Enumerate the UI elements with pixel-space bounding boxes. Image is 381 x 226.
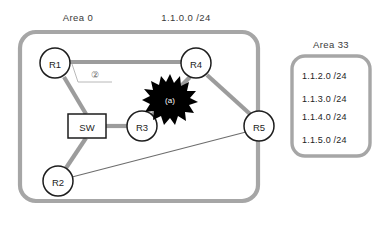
link-sw-r2: [66, 138, 86, 168]
node-sw-label: SW: [79, 122, 94, 133]
subnet-item-4: 1.1.5.0 /24: [302, 135, 347, 145]
subnet-item-2: 1.1.3.0 /24: [302, 94, 347, 104]
node-r3[interactable]: R3: [127, 111, 157, 141]
link-r4-r5: [207, 75, 250, 114]
subnet-item-1: 1.1.2.0 /24: [302, 71, 347, 81]
node-sw[interactable]: SW: [68, 114, 106, 138]
node-r1-label: R1: [49, 59, 61, 70]
diagram-canvas: ② R1 R4 R3 R5 R2: [0, 0, 381, 226]
node-r2[interactable]: R2: [43, 166, 73, 196]
callout-2-label: ②: [91, 70, 99, 80]
backbone-subnet-label: 1.1.0.0 /24: [161, 12, 210, 23]
area-0-caption: Area 0: [63, 12, 93, 23]
link-r1-sw: [64, 77, 86, 114]
node-group: R1 R4 R3 R5 R2 SW: [40, 48, 274, 196]
node-r4-label: R4: [190, 59, 202, 70]
fault-burst-label: (a): [165, 96, 175, 105]
node-r3-label: R3: [136, 122, 148, 133]
network-topology-diagram: ② R1 R4 R3 R5 R2: [0, 0, 381, 226]
node-r2-label: R2: [52, 177, 64, 188]
node-r1[interactable]: R1: [40, 48, 70, 78]
callout-2-group: ②: [72, 64, 112, 82]
node-r5[interactable]: R5: [244, 111, 274, 141]
area-33-caption: Area 33: [313, 39, 349, 50]
node-r5-label: R5: [253, 122, 265, 133]
subnet-item-3: 1.1.4.0 /24: [302, 112, 347, 122]
node-r4[interactable]: R4: [181, 48, 211, 78]
